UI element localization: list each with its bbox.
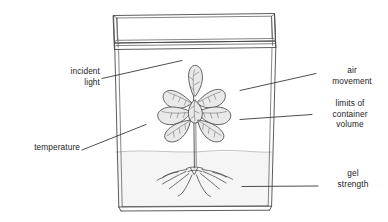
leader-air-movement bbox=[240, 74, 316, 91]
label-incident-light: incident light bbox=[28, 66, 100, 87]
container-lid bbox=[114, 14, 276, 50]
label-limits-of-container-volume: limits of container volume bbox=[316, 98, 384, 130]
label-gel-strength: gel strength bbox=[322, 168, 384, 189]
plant-container-diagram: .ln { fill:none; stroke:#4a4a4a; stroke-… bbox=[0, 0, 388, 222]
leader-gel-strength bbox=[242, 186, 318, 187]
leader-incident-light bbox=[102, 61, 182, 79]
leader-temperature bbox=[82, 125, 146, 151]
label-temperature: temperature bbox=[4, 142, 80, 153]
leader-limits bbox=[240, 115, 312, 120]
container-base bbox=[119, 206, 272, 211]
label-air-movement: air movement bbox=[320, 65, 384, 86]
